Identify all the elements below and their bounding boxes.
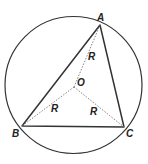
radius-label-oc: R bbox=[90, 106, 98, 117]
circumcircle-diagram: A B C O R R R bbox=[0, 0, 148, 164]
radius-label-ob: R bbox=[51, 103, 59, 114]
triangle-abc bbox=[22, 25, 124, 127]
vertex-label-c: C bbox=[126, 128, 134, 139]
radius-label-oa: R bbox=[88, 51, 96, 62]
center-label-o: O bbox=[77, 77, 85, 88]
vertex-label-a: A bbox=[96, 12, 104, 23]
circumcircle bbox=[5, 17, 142, 154]
vertex-label-b: B bbox=[12, 128, 19, 139]
